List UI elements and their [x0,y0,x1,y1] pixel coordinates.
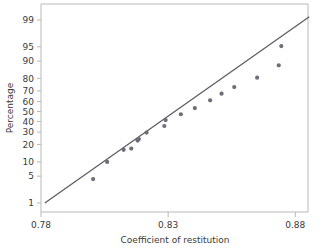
y-tick-label: 1 [28,198,34,208]
data-point [232,85,236,89]
data-point [219,92,223,96]
y-tick-label: 20 [23,140,35,150]
data-point [279,44,283,48]
x-tick-label: 0.83 [158,220,178,230]
data-point [208,98,212,102]
data-point [193,106,197,110]
data-point [144,130,148,134]
y-axis-title: Percentage [5,82,15,133]
y-tick-label: 10 [23,157,35,167]
x-tick-label: 0.78 [31,220,51,230]
y-tick-label: 99 [23,15,35,25]
data-point [129,146,133,150]
data-point [122,148,126,152]
y-tick-label: 90 [23,56,35,66]
data-point [277,63,281,67]
y-tick-label: 70 [23,86,35,96]
data-point [164,118,168,122]
y-tick-label: 40 [23,117,35,127]
data-point [105,160,109,164]
data-point [179,112,183,116]
y-tick-label: 95 [23,42,34,52]
x-axis-title: Coefficient of restitution [121,235,230,245]
y-tick-label: 30 [23,127,35,137]
data-point [137,137,141,141]
y-tick-label: 5 [28,171,34,181]
data-point [162,124,166,128]
data-point [255,76,259,80]
data-point [91,177,95,181]
normal-probability-plot: 151020304050607080909599 0.780.830.88 Pe… [0,0,336,250]
y-tick-label: 50 [23,107,35,117]
x-tick-label: 0.88 [285,220,305,230]
chart-canvas: 151020304050607080909599 0.780.830.88 Pe… [0,0,336,250]
y-tick-label: 60 [23,97,35,107]
y-tick-label: 80 [23,74,35,84]
